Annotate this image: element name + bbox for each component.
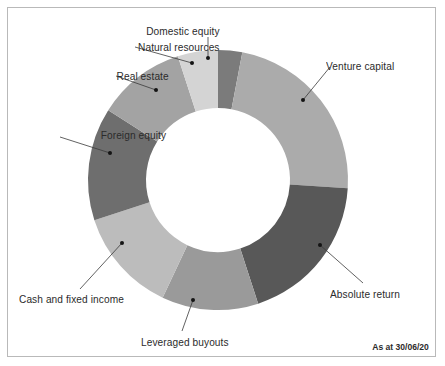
donut-chart [0,0,445,366]
leader-line-absolute-return [320,245,363,283]
leader-dot-cash-and-fixed-income [120,241,124,245]
leader-dot-absolute-return [318,243,322,247]
leader-dot-natural-resources [190,61,194,65]
leader-dot-domestic-equity [206,56,210,60]
donut-slice-venture-capital[interactable] [231,52,348,188]
slice-label-domestic-equity: Domestic equity [146,25,219,37]
slice-label-venture-capital: Venture capital [326,60,394,72]
donut-slice-absolute-return[interactable] [240,185,347,304]
slice-label-natural-resources: Natural resources [138,41,219,53]
chart-page: Domestic equityNatural resourcesReal est… [0,0,445,366]
leader-dot-foreign-equity [108,151,112,155]
date-note: As at 30/06/20 [372,341,429,352]
slice-label-foreign-equity: Foreign equity [101,129,166,141]
slice-label-absolute-return: Absolute return [330,288,400,300]
slice-label-cash-and-fixed-income: Cash and fixed income [19,293,124,305]
donut-slices-group [88,50,348,310]
leader-dot-venture-capital [301,98,305,102]
slice-label-real-estate: Real estate [117,70,169,82]
leader-dot-real-estate [154,88,158,92]
slice-label-leveraged-buyouts: Leveraged buyouts [141,336,229,348]
leader-dot-leveraged-buyouts [191,298,195,302]
leader-line-cash-and-fixed-income [80,243,122,289]
